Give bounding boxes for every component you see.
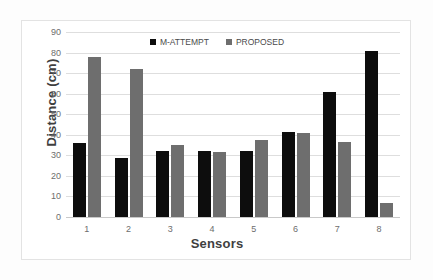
y-axis-tick-label: 10 (51, 191, 61, 201)
bar-group: 6 (275, 32, 317, 217)
bar (115, 158, 128, 217)
x-axis-tick-label: 1 (84, 224, 89, 234)
x-axis-tick-label: 7 (335, 224, 340, 234)
bar-group: 2 (108, 32, 150, 217)
bar (297, 133, 310, 217)
bar (338, 142, 351, 217)
bar-group: 1 (66, 32, 108, 217)
bar-group: 8 (358, 32, 400, 217)
chart-figure: Distance (cm) M-ATTEMPT PROPOSED 0102030… (0, 0, 433, 280)
x-axis-tick-label: 6 (293, 224, 298, 234)
y-axis-tick-label: 90 (51, 27, 61, 37)
y-axis-tick-label: 50 (51, 109, 61, 119)
y-axis-tick-label: 30 (51, 150, 61, 160)
bar (198, 151, 211, 217)
x-axis-tick-label: 2 (126, 224, 131, 234)
bar-group: 7 (317, 32, 359, 217)
y-axis-tick-label: 40 (51, 130, 61, 140)
bar (171, 145, 184, 217)
bar-group: 3 (150, 32, 192, 217)
bar (380, 203, 393, 217)
x-axis-tick-label: 4 (210, 224, 215, 234)
bar (213, 152, 226, 217)
x-axis-tick-label: 8 (377, 224, 382, 234)
bar (156, 151, 169, 217)
bar-groups: 12345678 (66, 32, 400, 217)
y-axis-tick-label: 20 (51, 171, 61, 181)
bar (323, 92, 336, 217)
y-axis-tick-label: 70 (51, 68, 61, 78)
y-axis-tick-label: 60 (51, 89, 61, 99)
y-axis-tick-label: 0 (56, 212, 61, 222)
bar (365, 51, 378, 218)
y-axis-tick-label: 80 (51, 48, 61, 58)
plot-area: 0102030405060708090 12345678 (66, 32, 400, 217)
bar (240, 151, 253, 217)
gridline: 0 (66, 217, 400, 218)
chart-plot-frame: Distance (cm) M-ATTEMPT PROPOSED 0102030… (21, 20, 411, 260)
x-axis-tick-label: 3 (168, 224, 173, 234)
x-axis-tick-label: 5 (251, 224, 256, 234)
bar (130, 69, 143, 217)
bar (88, 57, 101, 217)
bar-group: 4 (191, 32, 233, 217)
bar-group: 5 (233, 32, 275, 217)
bar (73, 143, 86, 217)
bar (255, 140, 268, 217)
bar (282, 132, 295, 217)
x-axis-title: Sensors (22, 236, 412, 251)
